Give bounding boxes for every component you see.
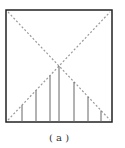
figure-caption: ( a )	[0, 132, 118, 143]
vertical-lines	[22, 66, 101, 122]
diagram	[0, 0, 125, 148]
